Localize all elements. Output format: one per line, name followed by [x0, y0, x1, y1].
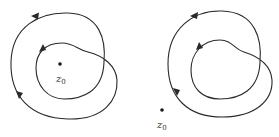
arrow-icon — [39, 44, 46, 52]
z0-point — [160, 108, 164, 112]
right-figure: z0 — [156, 11, 272, 132]
z0-point — [58, 62, 62, 66]
z0-label: z0 — [156, 119, 167, 132]
z0-label: z0 — [55, 73, 66, 86]
arrow-icon — [31, 13, 39, 20]
left-figure: z0 — [11, 13, 117, 120]
right-curve — [168, 11, 272, 117]
left-curve — [11, 13, 117, 119]
arrow-icon — [16, 91, 23, 99]
diagram-canvas: z0 z0 — [0, 0, 279, 137]
